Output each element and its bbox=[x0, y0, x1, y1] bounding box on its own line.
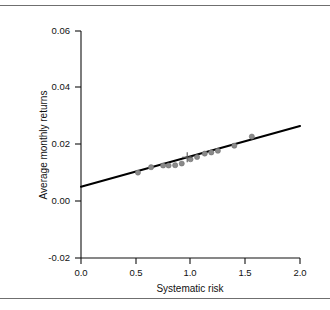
data-point bbox=[135, 170, 140, 175]
data-point bbox=[148, 165, 153, 170]
x-tick-label-0: 0.0 bbox=[74, 267, 87, 278]
y-tick-label-3: 0.00 bbox=[52, 195, 71, 206]
x-tick-label-1: 0.5 bbox=[129, 267, 142, 278]
scatter-plot: 0.06 0.04 0.02 0.00 -0.02 0.0 0.5 1.0 1.… bbox=[0, 0, 330, 310]
data-point bbox=[232, 143, 237, 148]
y-axis: 0.06 0.04 0.02 0.00 -0.02 bbox=[48, 25, 81, 263]
figure-root: 0.06 0.04 0.02 0.00 -0.02 0.0 0.5 1.0 1.… bbox=[0, 0, 330, 310]
y-tick-label-1: 0.04 bbox=[52, 81, 71, 92]
y-tick-label-0: 0.06 bbox=[52, 25, 71, 36]
x-axis: 0.0 0.5 1.0 1.5 2.0 bbox=[74, 258, 306, 278]
x-tick-label-3: 1.5 bbox=[238, 267, 251, 278]
data-point bbox=[166, 163, 171, 168]
y-axis-ticks bbox=[75, 31, 81, 258]
data-point bbox=[161, 163, 166, 168]
data-point bbox=[249, 134, 254, 139]
data-point bbox=[173, 163, 178, 168]
x-axis-ticks bbox=[81, 258, 300, 264]
x-tick-label-2: 1.0 bbox=[183, 267, 196, 278]
x-axis-title: Systematic risk bbox=[156, 283, 224, 294]
data-point bbox=[202, 151, 207, 156]
y-tick-label-2: 0.02 bbox=[52, 138, 71, 149]
x-tick-label-4: 2.0 bbox=[293, 267, 306, 278]
data-point bbox=[209, 150, 214, 155]
data-point bbox=[194, 154, 199, 159]
y-axis-title: Average monthly returns bbox=[38, 91, 49, 200]
y-tick-label-4: -0.02 bbox=[48, 252, 70, 263]
data-point bbox=[215, 148, 220, 153]
data-point bbox=[179, 161, 184, 166]
